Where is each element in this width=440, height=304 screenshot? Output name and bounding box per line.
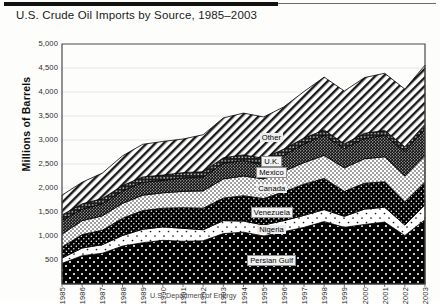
x-tick-label: 2003 (421, 287, 430, 304)
x-tick-label: 1987 (98, 287, 107, 304)
x-tick-label: 1998 (320, 287, 329, 304)
series-label-canada: Canada (256, 184, 287, 193)
series-label-nigeria: Nigeria (257, 225, 286, 234)
series-label-venezuela: Venezuela (251, 207, 293, 218)
x-tick-label: 1989 (139, 287, 148, 304)
x-tick-label: 1996 (280, 287, 289, 304)
series-label-other: Other (260, 133, 284, 142)
x-tick-label: 1994 (240, 287, 249, 304)
x-tick-label: 1985 (58, 287, 67, 304)
x-tick-label: 2002 (401, 287, 410, 304)
source-note: U.S. Department of Energy (150, 291, 236, 300)
series-label-persian-gulf: Persian Gulf (247, 255, 296, 266)
x-tick-label: 1999 (340, 287, 349, 304)
x-tick-label: 2000 (361, 287, 370, 304)
x-tick-label: 1988 (119, 287, 128, 304)
series-label-mexico: Mexico (256, 167, 287, 178)
x-tick-label: 1995 (260, 287, 269, 304)
x-tick-label: 1986 (78, 287, 87, 304)
area-series-group (62, 65, 425, 284)
x-tick-label: 2001 (381, 287, 390, 304)
x-tick-label: 1997 (300, 287, 309, 304)
